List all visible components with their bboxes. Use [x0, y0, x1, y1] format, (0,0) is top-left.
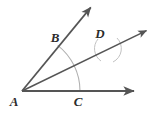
point-label-D: D [95, 27, 104, 40]
cross-arc-upper [113, 38, 121, 62]
construction-arcs [58, 38, 122, 91]
geometry-diagram: A B C D [0, 0, 162, 114]
rays [22, 7, 147, 91]
vertex-label-A: A [10, 95, 19, 108]
cross-arc-lower [94, 39, 101, 61]
ray-AD-bisector [22, 31, 147, 91]
point-label-B: B [51, 31, 60, 44]
ray-AB [22, 7, 91, 91]
point-label-C: C [74, 95, 83, 108]
